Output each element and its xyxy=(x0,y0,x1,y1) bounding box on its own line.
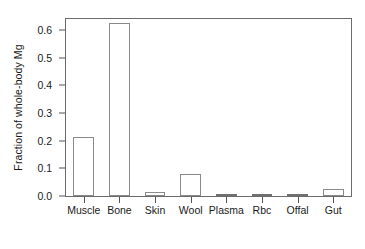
x-axis-tick-mark xyxy=(155,197,156,203)
x-axis-tick-mark xyxy=(226,197,227,203)
x-axis-tick-label-rbc: Rbc xyxy=(253,204,272,216)
y-axis-tick-label: 0.4 xyxy=(26,79,52,91)
x-axis-tick-label-muscle: Muscle xyxy=(67,204,100,216)
x-axis-tick-label-skin: Skin xyxy=(145,204,165,216)
bar-offal xyxy=(287,194,308,196)
y-axis-tick-label: 0.3 xyxy=(26,107,52,119)
x-axis-tick-mark xyxy=(84,197,85,203)
bar-chart-figure: Fraction of whole-body Mg 0.00.10.20.30.… xyxy=(0,0,365,249)
bars-group xyxy=(66,19,351,196)
y-axis-tick-label: 0.5 xyxy=(26,52,52,64)
bar-plasma xyxy=(216,194,237,196)
x-axis-tick-label-bone: Bone xyxy=(107,204,132,216)
x-axis-tick-label-plasma: Plasma xyxy=(209,204,244,216)
y-axis-title: Fraction of whole-body Mg xyxy=(10,18,26,197)
x-axis-tick-mark xyxy=(262,197,263,203)
y-axis-tick-label: 0.1 xyxy=(26,162,52,174)
bar-skin xyxy=(145,192,166,196)
y-axis-tick-labels: 0.00.10.20.30.40.50.6 xyxy=(26,0,52,249)
x-axis-tick-mark xyxy=(191,197,192,203)
x-axis-tick-marks xyxy=(66,197,351,203)
x-axis-tick-label-wool: Wool xyxy=(179,204,203,216)
x-axis-tick-mark xyxy=(119,197,120,203)
x-axis-tick-mark xyxy=(298,197,299,203)
bar-rbc xyxy=(252,194,273,196)
y-axis-tick-label: 0.2 xyxy=(26,135,52,147)
bar-bone xyxy=(109,23,130,196)
y-axis-tick-label: 0.6 xyxy=(26,24,52,36)
x-axis-tick-labels: MuscleBoneSkinWoolPlasmaRbcOffalGut xyxy=(66,204,351,222)
bar-gut xyxy=(323,189,344,196)
x-axis-tick-label-gut: Gut xyxy=(325,204,342,216)
y-axis-tick-label: 0.0 xyxy=(26,190,52,202)
bar-wool xyxy=(180,174,201,196)
bar-muscle xyxy=(73,137,94,196)
x-axis-tick-mark xyxy=(333,197,334,203)
x-axis-tick-label-offal: Offal xyxy=(287,204,309,216)
